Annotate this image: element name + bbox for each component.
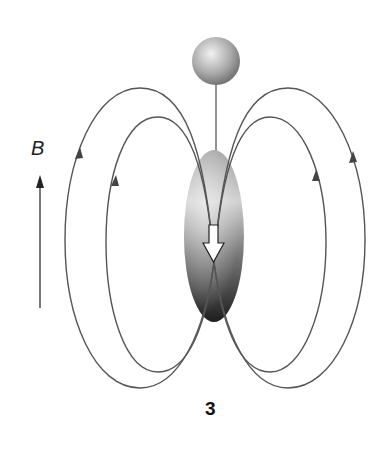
arrowhead-right-outer [349,151,357,163]
field-label: B [31,137,44,160]
field-direction-arrow [36,175,44,308]
field-diagram-svg [0,0,391,449]
sphere [192,37,240,85]
arrowhead-right-inner [312,170,320,181]
figure-caption: 3 [205,398,216,420]
